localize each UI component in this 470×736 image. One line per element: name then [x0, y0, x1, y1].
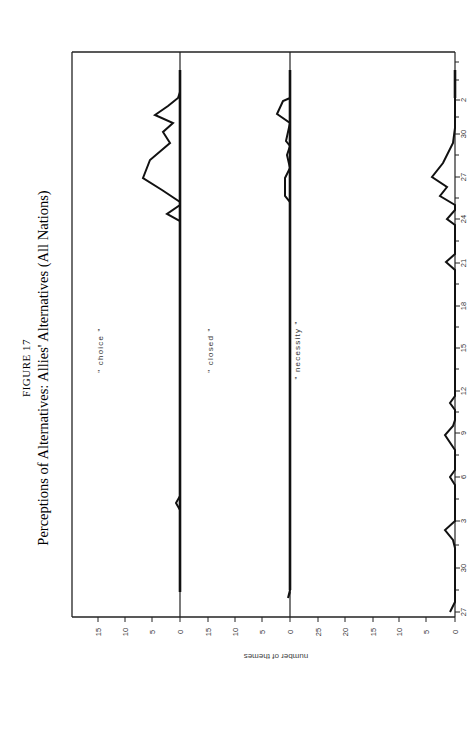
svg-text:30: 30: [459, 130, 468, 138]
svg-text:25: 25: [314, 628, 323, 636]
svg-text:10: 10: [395, 628, 404, 636]
svg-text:15: 15: [204, 628, 213, 636]
svg-text:15: 15: [94, 628, 103, 636]
svg-text:3: 3: [459, 519, 468, 523]
svg-text:12: 12: [459, 387, 468, 395]
x-tick-labels: 27 30 3 6 9 12 15 18 21 24 27 30 2: [459, 98, 468, 616]
figure-title: Perceptions of Alternatives: Allies' Alt…: [35, 190, 52, 546]
panel-label-choice: " choice ": [96, 327, 105, 372]
series-choice: [143, 70, 180, 592]
y-ticks: [98, 617, 455, 622]
svg-text:9: 9: [459, 431, 468, 435]
panel-baselines: [180, 52, 455, 617]
plot-frame: [72, 52, 455, 617]
series-necessity: [432, 70, 455, 612]
panel-label-necessity: " necessity ": [293, 320, 302, 379]
svg-text:27: 27: [459, 173, 468, 181]
svg-text:5: 5: [422, 630, 431, 634]
svg-text:18: 18: [459, 302, 468, 310]
svg-text:6: 6: [459, 475, 468, 479]
svg-text:10: 10: [231, 628, 240, 636]
svg-text:20: 20: [341, 628, 350, 636]
series-closed: [277, 70, 290, 598]
panel-label-closed: " closed ": [206, 327, 215, 372]
y-tick-labels: 15 10 5 0 15 10 5 0 25 20 15 10 5 0: [94, 628, 460, 636]
svg-text:15: 15: [369, 628, 378, 636]
svg-text:27: 27: [459, 608, 468, 616]
figure-label: FIGURE 17: [20, 339, 32, 397]
svg-text:15: 15: [459, 344, 468, 352]
svg-text:10: 10: [121, 628, 130, 636]
svg-text:5: 5: [148, 630, 157, 634]
svg-text:0: 0: [176, 630, 185, 634]
svg-text:5: 5: [258, 630, 267, 634]
svg-text:30: 30: [459, 564, 468, 572]
y-axis-label: number of themes: [244, 652, 308, 661]
svg-text:21: 21: [459, 259, 468, 267]
svg-text:0: 0: [451, 630, 460, 634]
svg-text:0: 0: [286, 630, 295, 634]
svg-text:24: 24: [459, 215, 468, 223]
rotated-figure: FIGURE 17 Perceptions of Alternatives: A…: [0, 0, 470, 736]
panel-labels: " choice " " closed " " necessity ": [96, 320, 302, 379]
svg-text:2: 2: [459, 98, 468, 102]
